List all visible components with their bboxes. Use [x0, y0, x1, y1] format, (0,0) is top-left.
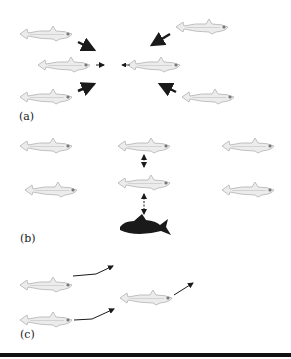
fish — [128, 57, 180, 72]
fish — [20, 138, 72, 153]
panel-label-c: (c) — [20, 328, 35, 341]
arrow-icon — [78, 84, 94, 91]
fish — [176, 19, 228, 34]
panel-b — [20, 138, 274, 235]
panel-a — [20, 19, 234, 104]
fish — [182, 89, 234, 104]
fish — [25, 182, 77, 197]
panel-c — [20, 266, 193, 327]
fish — [20, 26, 72, 41]
arrow-icon — [152, 34, 170, 45]
fish — [20, 312, 72, 327]
fish — [120, 290, 172, 305]
fish — [118, 175, 170, 190]
bottom-border — [0, 353, 291, 357]
fish — [20, 89, 72, 104]
fish — [20, 277, 72, 292]
arrow-icon — [160, 84, 176, 92]
fish — [222, 182, 274, 197]
panel-label-b: (b) — [20, 232, 36, 245]
arrow-icon — [78, 42, 94, 50]
predator-fish-icon — [120, 214, 171, 235]
fish — [38, 57, 90, 72]
fish — [222, 138, 274, 153]
arrow-icon — [73, 266, 113, 276]
fish — [118, 138, 170, 153]
panel-label-a: (a) — [19, 110, 34, 123]
arrow-icon — [174, 283, 193, 295]
fish-schooling-diagram — [0, 0, 291, 359]
arrow-icon — [74, 309, 114, 320]
